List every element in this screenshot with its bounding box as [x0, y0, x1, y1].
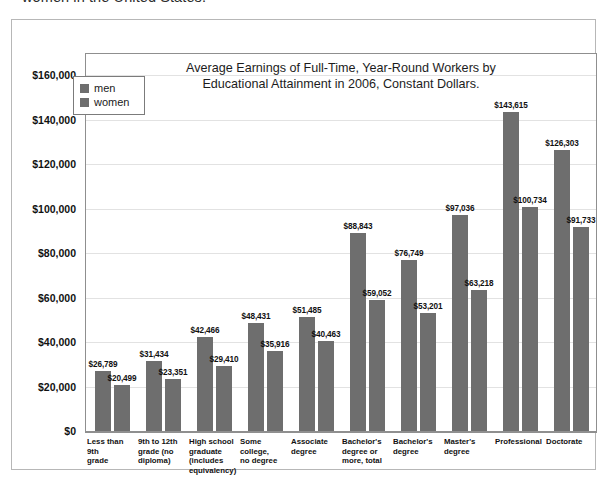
chart-legend: menwomen — [73, 76, 145, 115]
bar-women-6 — [420, 313, 436, 431]
bar-value-label: $20,499 — [100, 374, 144, 383]
bar-value-label: $42,466 — [183, 326, 227, 335]
bar-value-label: $91,733 — [559, 216, 603, 225]
bar-value-label: $143,615 — [489, 101, 533, 110]
bar-men-5 — [350, 233, 366, 431]
x-tick-label-6: Bachelor'sdegree — [393, 437, 442, 456]
bar-women-3 — [267, 351, 283, 431]
legend-item-women[interactable]: women — [80, 95, 138, 109]
bar-men-6 — [401, 260, 417, 431]
legend-label: women — [94, 95, 129, 109]
bar-women-8 — [522, 207, 538, 431]
bar-value-label: $63,218 — [457, 279, 501, 288]
y-tick-label: $80,000 — [38, 247, 76, 259]
x-tick-label-0: Less than 9thgrade — [87, 437, 136, 466]
x-tick-label-9: Doctorate — [546, 437, 595, 447]
y-tick-label: $160,000 — [32, 69, 76, 81]
x-axis-labels: Less than 9thgrade9th to 12thgrade (nodi… — [85, 437, 597, 484]
bar-women-4 — [318, 341, 334, 431]
legend-label: men — [94, 81, 115, 95]
bar-value-label: $35,916 — [253, 340, 297, 349]
legend-swatch-icon — [80, 84, 89, 93]
bar-value-label: $48,431 — [234, 312, 278, 321]
bar-value-label: $76,749 — [387, 249, 431, 258]
page-caption-strip: women in the United States. — [0, 0, 611, 14]
bar-value-label: $29,410 — [202, 355, 246, 364]
x-tick-label-1: 9th to 12thgrade (nodiploma) — [138, 437, 187, 466]
bar-women-1 — [165, 379, 181, 431]
x-tick-label-5: Bachelor'sdegree ormore, total — [342, 437, 391, 466]
y-tick-label: $100,000 — [32, 203, 76, 215]
bar-men-7 — [452, 215, 468, 431]
x-tick-label-3: Some college,no degree — [240, 437, 289, 466]
bar-women-0 — [114, 385, 130, 431]
bar-value-label: $26,789 — [81, 360, 125, 369]
bars-layer: $26,789$20,499$31,434$23,351$42,466$29,4… — [87, 55, 595, 431]
bar-value-label: $31,434 — [132, 350, 176, 359]
bar-women-5 — [369, 300, 385, 431]
plot-area: Average Earnings of Full-Time, Year-Roun… — [85, 53, 597, 433]
x-tick-label-2: High schoolgraduate(includesequivalency) — [189, 437, 238, 475]
bar-men-9 — [554, 150, 570, 431]
y-tick-label: $20,000 — [38, 381, 76, 393]
bar-value-label: $23,351 — [151, 368, 195, 377]
bar-women-2 — [216, 366, 232, 431]
legend-item-men[interactable]: men — [80, 81, 138, 95]
y-tick-label: $40,000 — [38, 336, 76, 348]
bar-value-label: $51,485 — [285, 306, 329, 315]
bar-women-7 — [471, 290, 487, 431]
x-tick-label-8: Professional — [495, 437, 544, 447]
bar-women-9 — [573, 227, 589, 431]
x-tick-label-4: Associatedegree — [291, 437, 340, 456]
bar-value-label: $88,843 — [336, 222, 380, 231]
caption-text: women in the United States. — [22, 0, 206, 5]
bar-men-8 — [503, 112, 519, 431]
bar-value-label: $59,052 — [355, 289, 399, 298]
x-tick-label-7: Master'sdegree — [444, 437, 493, 456]
y-axis-labels: $0$20,000$40,000$60,000$80,000$100,000$1… — [12, 53, 80, 433]
gridline-0 — [86, 431, 596, 432]
legend-swatch-icon — [80, 98, 89, 107]
bar-value-label: $97,036 — [438, 204, 482, 213]
y-tick-label: $140,000 — [32, 114, 76, 126]
bar-value-label: $100,734 — [508, 196, 552, 205]
bar-value-label: $126,303 — [540, 139, 584, 148]
bar-value-label: $40,463 — [304, 330, 348, 339]
y-tick-label: $60,000 — [38, 292, 76, 304]
bar-value-label: $53,201 — [406, 302, 450, 311]
y-tick-label: $0 — [64, 425, 76, 437]
figure-frame: $0$20,000$40,000$60,000$80,000$100,000$1… — [11, 19, 596, 470]
y-tick-label: $120,000 — [32, 158, 76, 170]
bar-men-2 — [197, 337, 213, 431]
